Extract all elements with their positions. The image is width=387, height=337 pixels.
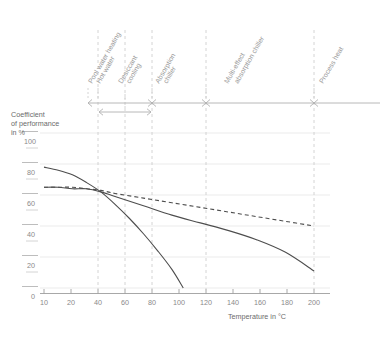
x-axis-title: Temperature in °C: [228, 312, 286, 321]
chart-container: 100 80 60 40 20 0 10 20 40 60 80 100 120…: [0, 0, 387, 337]
y-axis-title-line3: in %: [11, 128, 81, 137]
y-axis-minor-ticks: [26, 148, 38, 272]
series-line-2: [44, 187, 314, 226]
y-axis-title-line2: of performance: [11, 119, 81, 128]
y-tick-20: 20: [27, 261, 35, 270]
x-tick-200: 200: [308, 298, 320, 307]
category-range-axis: [88, 100, 380, 107]
x-tick-10: 10: [40, 298, 48, 307]
x-tick-20: 20: [67, 298, 75, 307]
x-tick-180: 180: [281, 298, 293, 307]
y-tick-40: 40: [27, 230, 35, 239]
y-tick-100: 100: [24, 137, 36, 146]
y-tick-80: 80: [27, 168, 35, 177]
chart-svg: 100 80 60 40 20 0 10 20 40 60 80 100 120…: [0, 0, 387, 337]
x-tick-100: 100: [173, 298, 185, 307]
data-series-group: [44, 167, 314, 288]
y-tick-labels: 100 80 60 40 20 0: [24, 137, 36, 301]
y-tick-60: 60: [27, 199, 35, 208]
x-tick-120: 120: [200, 298, 212, 307]
category-axis-stubs: [88, 88, 314, 100]
x-tick-140: 140: [227, 298, 239, 307]
series-line-1: [44, 187, 314, 271]
x-axis-ticks: [44, 289, 314, 294]
x-tick-160: 160: [254, 298, 266, 307]
y-tick-0: 0: [31, 292, 35, 301]
gridlines-horizontal: [40, 133, 330, 288]
y-axis-title-line1: Coefficient: [11, 110, 81, 119]
x-tick-labels: 10 20 40 60 80 100 120 140 160 180 200: [40, 298, 320, 307]
x-tick-80: 80: [148, 298, 156, 307]
cat-label-process-heat: Process heat: [318, 46, 345, 85]
y-axis-title: Coefficient of performance in %: [11, 110, 81, 138]
x-tick-40: 40: [94, 298, 102, 307]
x-tick-60: 60: [121, 298, 129, 307]
series-line-0: [44, 167, 183, 288]
